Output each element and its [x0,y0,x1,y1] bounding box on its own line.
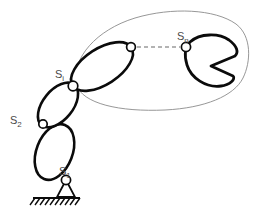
joint-s2-label-base: S [10,114,17,126]
joint-s2-label-sub: 2 [17,120,22,129]
link-1-body [27,118,81,185]
joint-si-label-base: S [55,68,62,80]
joint-si-label-sub: i [62,74,64,83]
joint-sk-marker[interactable] [127,43,136,52]
diagram-canvas: S1 S2 Si Sn [0,0,257,215]
joint-s1-label-base: S [59,165,66,177]
joint-sn-label-base: S [177,30,184,42]
joint-s1-label-sub: 1 [66,171,71,180]
end-effector-gripper [185,35,237,86]
joint-si-label: Si [55,68,64,83]
joint-s2-marker[interactable] [39,120,47,128]
kinematic-chain-figure: S1 S2 Si Sn [0,0,257,215]
joint-si-marker[interactable] [68,81,78,91]
joint-s2-label: S2 [10,114,22,129]
joint-sn-label-sub: n [184,36,188,45]
